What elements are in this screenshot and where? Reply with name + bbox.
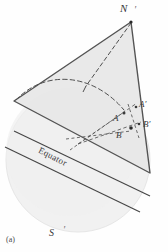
axis-tick-south-icon: ′ <box>63 224 65 235</box>
label-point-b: B <box>116 131 122 140</box>
point-b-prime-marker <box>138 123 141 126</box>
figure-caption: (a) <box>6 236 15 244</box>
point-b-marker <box>129 126 133 130</box>
label-north-pole: N <box>120 3 127 14</box>
label-point-a: A <box>113 114 119 123</box>
label-south-pole: S <box>49 228 54 238</box>
point-a-prime-marker <box>135 106 138 109</box>
figure-container: N ′ A′ B′ A B Equator S ′ (a) <box>0 0 168 252</box>
label-point-b-prime: B′ <box>143 120 150 129</box>
axis-tick-north-icon: ′ <box>134 4 136 15</box>
north-pole-marker <box>129 20 132 23</box>
point-a-marker <box>123 112 126 115</box>
label-point-a-prime: A′ <box>139 100 146 109</box>
